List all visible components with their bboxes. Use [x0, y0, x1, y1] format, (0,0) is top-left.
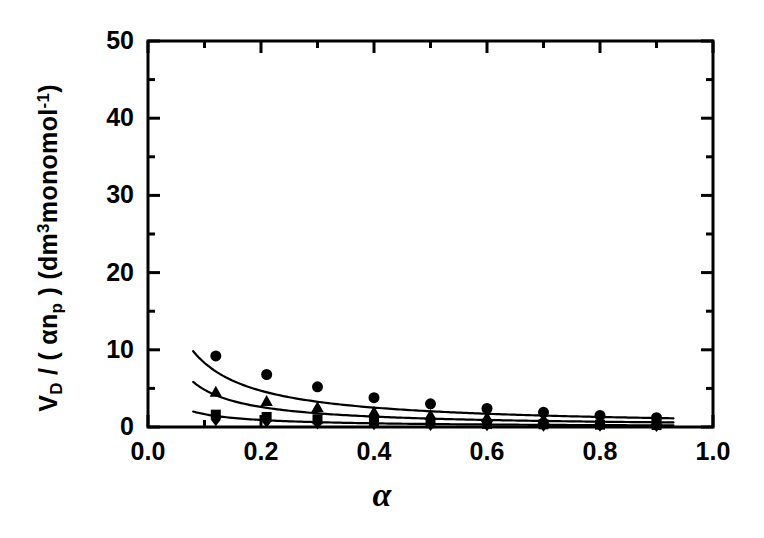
- axes-frame-rect: [148, 41, 713, 427]
- marker-circle-4: [425, 398, 436, 409]
- axes-frame: [148, 41, 713, 427]
- marker-triangle-up-1: [260, 395, 272, 406]
- marker-circle-2: [312, 381, 323, 392]
- figure-canvas: VD / ( αnp ) (dm3monomol-1) 01020304050 …: [0, 0, 764, 538]
- marker-triangle-up-0: [210, 386, 222, 397]
- tick-marks: [148, 41, 713, 427]
- marker-circle-3: [369, 392, 380, 403]
- plot-area: [0, 0, 764, 538]
- marker-circle-0: [210, 350, 221, 361]
- marker-circle-1: [261, 369, 272, 380]
